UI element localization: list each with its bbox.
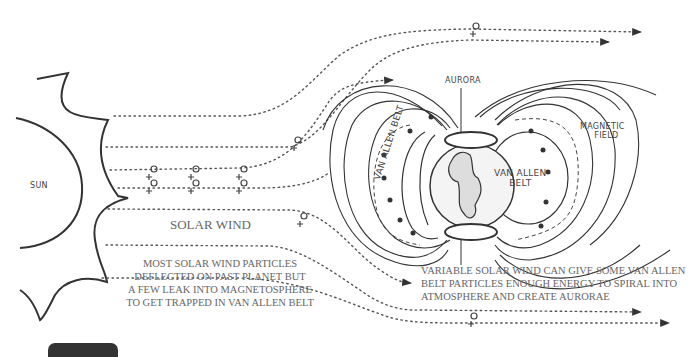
magnetic-field-label-line2: FIELD [580, 131, 625, 140]
sun-shape [16, 73, 128, 320]
dark-tab-badge [48, 343, 118, 357]
solar-wind-label: SOLAR WIND [170, 217, 251, 233]
caption-right-line3: ATMOSPHERE AND CREATE AURORAE [421, 290, 696, 303]
magnetic-field-label-line1: MAGNETIC [580, 122, 625, 131]
caption-left-line3: A FEW LEAK INTO MAGNETOSPHERE [120, 283, 320, 296]
caption-left-line1: MOST SOLAR WIND PARTICLES [120, 257, 320, 270]
van-allen-right-line1: VAN ALLEN [494, 168, 547, 178]
van-allen-right-line2: BELT [494, 178, 547, 188]
caption-right-line2: BELT PARTICLES ENOUGH ENERGY TO SPIRAL I… [421, 277, 696, 290]
magnetic-field-label: MAGNETIC FIELD [580, 122, 625, 140]
caption-right-line1: VARIABLE SOLAR WIND CAN GIVE SOME VAN AL… [421, 264, 696, 277]
caption-left-line4: TO GET TRAPPED IN VAN ALLEN BELT [120, 296, 320, 309]
caption-aurora-creation: VARIABLE SOLAR WIND CAN GIVE SOME VAN AL… [421, 264, 696, 303]
aurora-label: AURORA [445, 76, 481, 85]
caption-solar-wind-deflection: MOST SOLAR WIND PARTICLES DEFLECTED ON P… [120, 257, 320, 309]
caption-left-line2: DEFLECTED ON PAST PLANET BUT [120, 270, 320, 283]
van-allen-belt-right-label: VAN ALLEN BELT [494, 168, 547, 188]
sun-label: SUN [30, 181, 48, 190]
